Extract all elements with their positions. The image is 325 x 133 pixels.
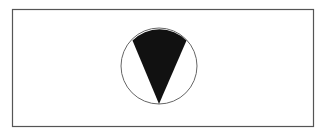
diagram-canvas [0, 0, 325, 133]
diagram-svg [0, 0, 325, 133]
